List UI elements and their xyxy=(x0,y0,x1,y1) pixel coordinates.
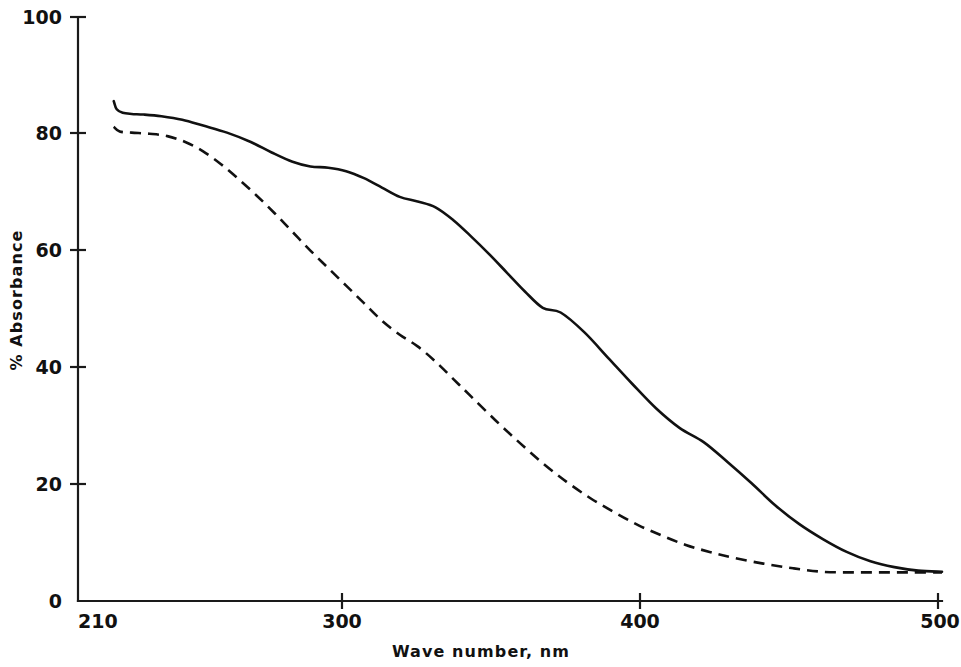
y-tick-label-0: 0 xyxy=(49,590,62,612)
x-tick-label-400: 400 xyxy=(620,610,660,632)
y-axis-title: % Absorbance xyxy=(7,229,26,370)
x-tick-label-500: 500 xyxy=(920,610,960,632)
x-tick-label-210: 210 xyxy=(78,610,118,632)
chart-figure: 100 80 60 40 20 0 210 300 400 500 Wave n… xyxy=(0,0,961,667)
x-axis-tick-labels: 210 300 400 500 xyxy=(78,610,960,632)
plot-series-group xyxy=(114,101,942,572)
x-tick-label-300: 300 xyxy=(322,610,362,632)
y-tick-label-60: 60 xyxy=(36,239,62,261)
y-axis-tick-labels: 100 80 60 40 20 0 xyxy=(22,6,62,612)
y-tick-label-80: 80 xyxy=(36,122,62,144)
series-dashed-curve xyxy=(114,127,942,573)
y-tick-label-20: 20 xyxy=(36,473,62,495)
y-tick-label-40: 40 xyxy=(36,356,62,378)
x-axis-title: Wave number, nm xyxy=(392,642,570,661)
y-tick-label-100: 100 xyxy=(22,6,62,28)
series-solid-curve xyxy=(114,101,942,572)
absorbance-spectrum-chart: 100 80 60 40 20 0 210 300 400 500 Wave n… xyxy=(0,0,961,667)
